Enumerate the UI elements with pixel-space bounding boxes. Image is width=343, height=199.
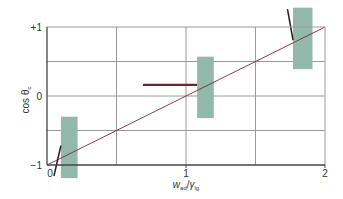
x-axis-label-sub2: lg	[195, 185, 200, 191]
y-axis-label-sub: c	[26, 87, 32, 90]
y-tick-label: 0	[36, 91, 42, 102]
x-axis-label-sub1: ad	[180, 185, 187, 191]
x-tick-label: 0	[47, 168, 53, 179]
y-tick-label: +1	[31, 22, 43, 33]
y-axis-label-main: cos θ	[20, 89, 31, 113]
x-tick-label: 2	[322, 168, 328, 179]
band-2	[197, 57, 214, 118]
y-tick-label: −1	[31, 160, 43, 171]
x-tick-label: 1	[183, 168, 189, 179]
y-axis-label: cos θc	[20, 87, 32, 114]
band-1	[61, 117, 78, 178]
x-axis-label: wad/γlg	[173, 179, 199, 191]
steep-segment-high	[287, 9, 293, 40]
chart: 012+10−1 cos θc wad/γlg	[0, 0, 343, 199]
bands	[61, 8, 313, 178]
